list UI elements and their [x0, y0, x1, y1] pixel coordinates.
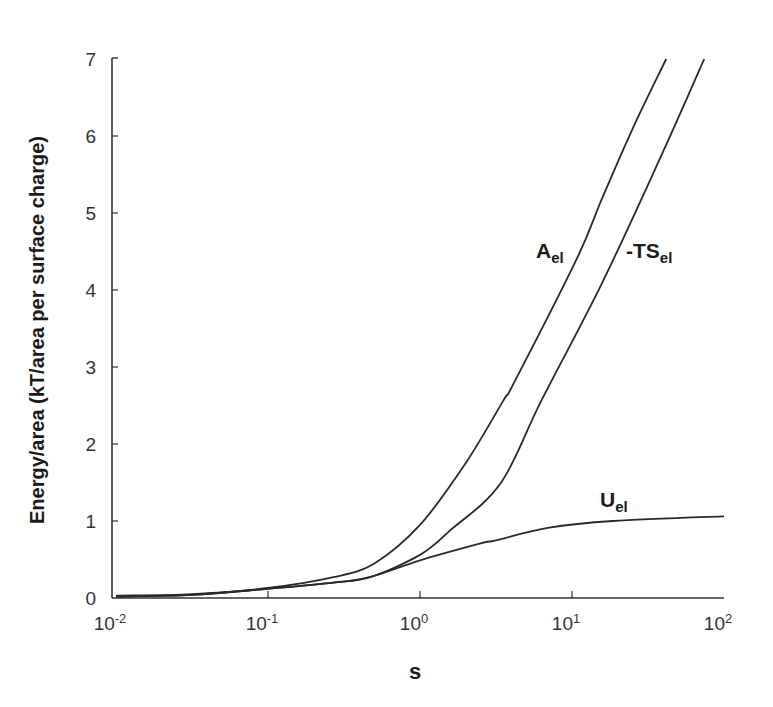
y-tick-label: 4 [85, 280, 96, 301]
y-tick-label: 5 [85, 203, 96, 224]
y-tick-label: 0 [85, 588, 96, 609]
chart: 01234567 10-210-1100101102 Ael -TSel Uel… [0, 0, 773, 707]
y-tick-label: 3 [85, 357, 96, 378]
series-lines [116, 59, 724, 597]
y-tick-label: 7 [85, 49, 96, 70]
series-line-tsel [116, 59, 704, 597]
y-tick-label: 6 [85, 126, 96, 147]
series-label-a: Ael [536, 239, 564, 266]
x-tick-label: 102 [704, 611, 732, 634]
x-tick-label: 10-2 [94, 611, 127, 634]
plot-area: 01234567 10-210-1100101102 [85, 49, 732, 634]
y-axis-title: Energy/area (kT/area per surface charge) [26, 136, 48, 524]
series-line-ael [116, 59, 666, 596]
y-tick-label: 1 [85, 511, 96, 532]
series-label-ts: -TSel [626, 239, 672, 266]
x-axis-title: s [409, 659, 421, 684]
y-tick-label: 2 [85, 434, 96, 455]
x-tick-label: 100 [400, 611, 428, 634]
y-ticks: 01234567 [85, 49, 118, 609]
x-tick-label: 10-1 [246, 611, 279, 634]
series-label-u: Uel [600, 488, 628, 515]
series-line-uel [116, 516, 724, 596]
x-tick-label: 101 [552, 611, 580, 634]
